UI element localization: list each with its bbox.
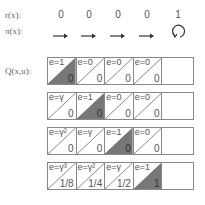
q-cell: e=10: [48, 58, 77, 84]
q-cell: e=γ1/2: [105, 163, 134, 189]
q-value: 1/8: [60, 178, 74, 189]
reward-value: 0: [108, 9, 128, 20]
eligibility-value: e=1: [78, 93, 93, 102]
eligibility-value: e=γ³: [49, 163, 67, 172]
q-value: 0: [154, 73, 160, 84]
eligibility-value: e=0: [106, 93, 121, 102]
q-cell: e=10: [105, 128, 134, 154]
q-cell: e=00: [77, 58, 106, 84]
eligibility-value: e=0: [78, 58, 93, 67]
self-loop-icon: [168, 23, 188, 39]
q-cell: e=11: [134, 163, 163, 189]
q-row: e=γ0e=10e=00e=00: [47, 92, 194, 120]
q-value: 0: [68, 143, 74, 154]
q-value: 0: [154, 143, 160, 154]
eligibility-value: e=γ²: [78, 163, 96, 172]
eligibility-value: e=γ: [106, 163, 121, 172]
reward-value: 1: [168, 9, 188, 20]
q-cell: e=00: [105, 93, 134, 119]
q-row: e=10e=00e=00e=00: [47, 57, 194, 85]
q-cell: e=10: [77, 93, 106, 119]
q-value: 0: [125, 143, 131, 154]
eligibility-value: e=1: [106, 128, 121, 137]
q-cell: e=γ0: [77, 128, 106, 154]
q-value: 1/4: [88, 178, 102, 189]
eligibility-value: e=0: [135, 128, 150, 137]
q-value: 0: [125, 73, 131, 84]
reward-value: 0: [51, 9, 71, 20]
q-value: 1/2: [117, 178, 131, 189]
q-value: 0: [97, 143, 103, 154]
q-value: 0: [97, 73, 103, 84]
eligibility-value: e=0: [106, 58, 121, 67]
eligibility-value: e=1: [135, 163, 150, 172]
empty-cell: [162, 93, 193, 119]
arrow-right-icon: [137, 27, 157, 37]
q-value: 0: [125, 108, 131, 119]
policy-label: π(x):: [5, 26, 23, 36]
empty-cell: [162, 58, 193, 84]
q-cell: e=γ²1/4: [77, 163, 106, 189]
empty-cell: [162, 163, 193, 189]
arrow-right-icon: [108, 27, 128, 37]
q-cell: e=γ0: [48, 93, 77, 119]
eligibility-value: e=γ²: [49, 128, 67, 137]
eligibility-value: e=0: [135, 58, 150, 67]
q-value: 0: [68, 73, 74, 84]
q-cell: e=00: [134, 58, 163, 84]
q-cell: e=00: [134, 93, 163, 119]
q-row: e=γ²0e=γ0e=10e=00: [47, 127, 194, 155]
q-label: Q(x,u):: [5, 66, 31, 76]
q-value: 0: [154, 108, 160, 119]
q-value: 1: [154, 178, 160, 189]
q-cell: e=00: [105, 58, 134, 84]
q-cell: e=00: [134, 128, 163, 154]
eligibility-value: e=1: [49, 58, 64, 67]
q-value: 0: [68, 108, 74, 119]
eligibility-value: e=0: [135, 93, 150, 102]
reward-value: 0: [137, 9, 157, 20]
q-value: 0: [97, 108, 103, 119]
q-cell: e=γ²0: [48, 128, 77, 154]
eligibility-value: e=γ: [49, 93, 64, 102]
reward-value: 0: [79, 9, 99, 20]
q-row: e=γ³1/8e=γ²1/4e=γ1/2e=11: [47, 162, 194, 190]
arrow-right-icon: [79, 27, 99, 37]
reward-label: r(x):: [5, 10, 21, 20]
eligibility-value: e=γ: [78, 128, 93, 137]
arrow-right-icon: [51, 27, 71, 37]
q-cell: e=γ³1/8: [48, 163, 77, 189]
empty-cell: [162, 128, 193, 154]
